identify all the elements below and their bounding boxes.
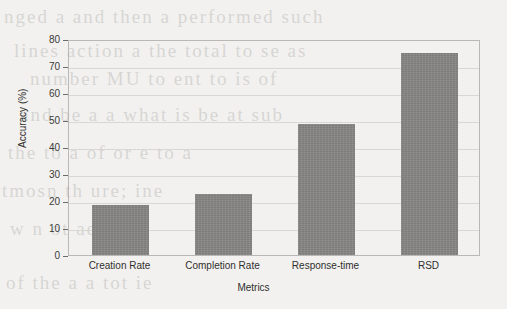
x-tick-label: Creation Rate	[68, 260, 171, 271]
y-tick-label: 10	[34, 224, 60, 234]
bar	[92, 205, 149, 255]
y-tick-label: 50	[34, 116, 60, 126]
y-tick-label: 60	[34, 89, 60, 99]
bar	[195, 194, 252, 255]
x-axis-title: Metrics	[0, 282, 507, 293]
y-tick-label: 40	[34, 143, 60, 153]
y-tick-mark	[63, 256, 68, 257]
x-tick-label: Completion Rate	[171, 260, 274, 271]
bar	[401, 53, 458, 256]
y-tick-label: 30	[34, 170, 60, 180]
x-tick-label: RSD	[377, 260, 480, 271]
y-tick-label: 20	[34, 197, 60, 207]
y-tick-label: 80	[34, 35, 60, 45]
y-tick-label: 0	[34, 251, 60, 261]
bar	[298, 124, 355, 255]
y-axis-title: Accuracy (%)	[17, 89, 28, 148]
plot-area	[68, 40, 480, 256]
x-tick-label: Response-time	[274, 260, 377, 271]
bar-chart: Accuracy (%) 01020304050607080 Creation …	[0, 0, 507, 309]
y-tick-label: 70	[34, 62, 60, 72]
